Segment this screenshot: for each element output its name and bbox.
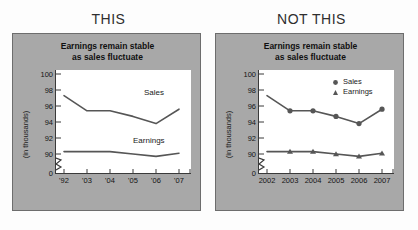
x-tick-label: 2004 (305, 176, 322, 185)
y-tick-label: 94 (234, 118, 256, 127)
y-axis-caption-good: (in thousands) (21, 105, 30, 165)
x-tick-label: '07 (174, 176, 184, 185)
triangle-marker-icon (332, 89, 339, 96)
y-tick-label: 92 (234, 134, 256, 143)
chart-panel-bad: Earnings remain stable as sales fluctuat… (215, 33, 404, 211)
series-markers-earnings (287, 149, 385, 159)
chart-title-line-2: as sales fluctuate (224, 52, 397, 63)
legend-label-earnings: Earnings (343, 87, 373, 97)
chart-title-bad: Earnings remain stable as sales fluctuat… (224, 41, 397, 62)
y-tick-label: 90 (234, 150, 256, 159)
x-tick-label: '04 (105, 176, 115, 185)
y-axis-break-icon (56, 158, 61, 170)
x-tick-label: '06 (151, 176, 161, 185)
column-header-not-this: NOT THIS (215, 11, 408, 27)
y-tick-label: 96 (234, 102, 256, 111)
column-header-this: THIS (12, 11, 205, 27)
series-line-earnings (64, 152, 179, 157)
y-tick-label: 96 (31, 102, 53, 111)
x-tick-label: 2007 (374, 176, 391, 185)
chart-title-good: Earnings remain stable as sales fluctuat… (21, 41, 194, 62)
y-tick-label: 0 (31, 169, 53, 178)
chart-panel-good: Earnings remain stable as sales fluctuat… (12, 33, 201, 211)
plot-svg-good (56, 70, 192, 174)
plot-area-good: 100 98 96 94 92 90 0 '92 '03 '04 '05 '06… (55, 70, 191, 174)
x-tick-label: 2002 (259, 176, 276, 185)
y-axis-caption-bad: (in thousands) (224, 105, 233, 165)
series-line-sales (267, 96, 382, 124)
chart-title-line-2: as sales fluctuate (21, 52, 194, 63)
chart-title-line-1: Earnings remain stable (21, 41, 194, 52)
legend-label-sales: Sales (343, 77, 362, 87)
x-tick-label: 2003 (282, 176, 299, 185)
series-label-earnings: Earnings (133, 136, 165, 145)
x-tick-label: 2006 (351, 176, 368, 185)
plot-area-bad: 100 98 96 94 92 90 0 2002 2003 2004 2005… (258, 70, 394, 174)
x-tick-marks (64, 169, 190, 174)
y-tick-label: 90 (31, 150, 53, 159)
x-tick-marks (267, 169, 393, 174)
x-tick-label: '05 (128, 176, 138, 185)
y-tick-label: 100 (31, 70, 53, 79)
series-label-sales: Sales (144, 88, 164, 97)
y-tick-marks (56, 74, 61, 154)
series-line-earnings (267, 152, 382, 157)
y-tick-label: 100 (234, 70, 256, 79)
y-tick-label: 98 (31, 86, 53, 95)
plot-svg-bad (259, 70, 395, 174)
x-tick-label: '92 (59, 176, 69, 185)
y-tick-label: 0 (234, 169, 256, 178)
x-tick-label: '03 (82, 176, 92, 185)
y-tick-label: 98 (234, 86, 256, 95)
series-line-sales (64, 96, 179, 124)
chart-title-line-1: Earnings remain stable (224, 41, 397, 52)
chart-legend-bad: Sales Earnings (332, 77, 373, 97)
y-axis-break-icon (259, 158, 264, 170)
legend-item-sales: Sales (332, 77, 373, 87)
figure-canvas: THIS NOT THIS Earnings remain stable as … (0, 0, 418, 230)
y-tick-marks (259, 74, 264, 154)
y-tick-label: 92 (31, 134, 53, 143)
y-tick-label: 94 (31, 118, 53, 127)
x-tick-label: 2005 (328, 176, 345, 185)
legend-item-earnings: Earnings (332, 87, 373, 97)
circle-marker-icon (332, 79, 339, 86)
